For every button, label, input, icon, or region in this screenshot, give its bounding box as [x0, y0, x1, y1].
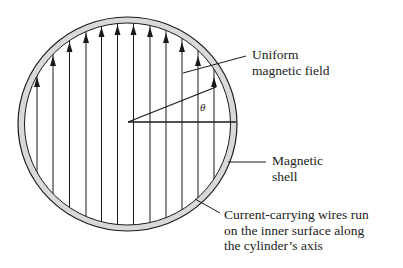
wires-label-line-2: on the inner surface along	[224, 223, 369, 239]
field-label-line-2: magnetic field	[252, 63, 330, 79]
shell-label: Magnetic shell	[272, 153, 323, 184]
wires-label-line-1: Current-carrying wires run	[224, 207, 369, 223]
wires-label-line-3: the cylinder’s axis	[224, 238, 369, 254]
wires-label: Current-carrying wires run on the inner …	[224, 207, 369, 254]
field-label: Uniform magnetic field	[252, 47, 330, 78]
field-label-line-1: Uniform	[252, 47, 330, 63]
magnetic-shell	[18, 17, 237, 231]
shell-label-line-2: shell	[272, 169, 323, 185]
angle-theta-label: θ	[200, 101, 205, 113]
shell-label-line-1: Magnetic	[272, 153, 323, 169]
